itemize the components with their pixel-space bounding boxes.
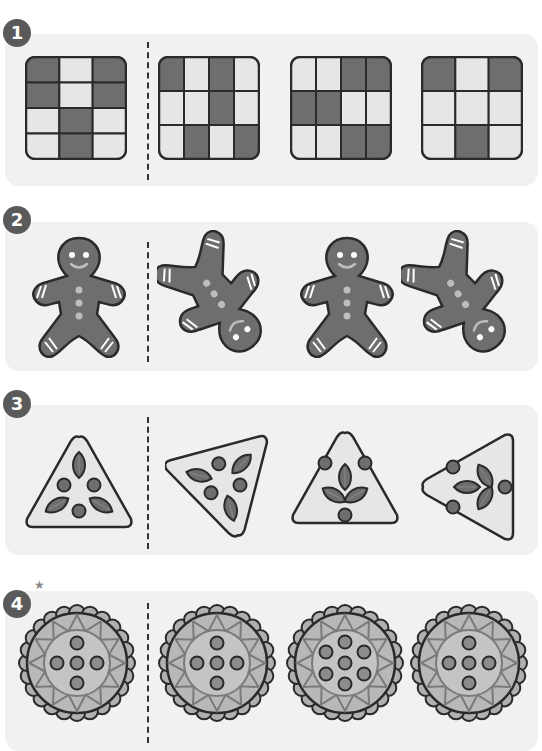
dashed-divider <box>147 603 149 743</box>
section-1-panel <box>5 34 538 186</box>
grid-option-1[interactable] <box>158 56 260 160</box>
triangle-option-3[interactable] <box>413 423 533 543</box>
triangle-option-2[interactable] <box>285 419 405 539</box>
gingerbread-option-1[interactable] <box>157 230 277 366</box>
dashed-divider <box>147 42 149 180</box>
gingerbread-option-3[interactable] <box>401 230 521 366</box>
section-1-badge: 1 <box>3 19 31 47</box>
grid-reference[interactable] <box>25 56 127 160</box>
triangle-reference[interactable] <box>19 423 139 543</box>
gingerbread-option-2[interactable] <box>287 230 407 366</box>
grid-option-2[interactable] <box>290 56 392 160</box>
cookie-option-1[interactable] <box>157 601 277 725</box>
section-4-panel <box>5 591 538 751</box>
section-3-panel <box>5 405 538 555</box>
section-4-badge: 4 <box>3 590 31 618</box>
cookie-option-3[interactable] <box>409 601 529 725</box>
dashed-divider <box>147 242 149 362</box>
section-2-panel <box>5 222 538 371</box>
gingerbread-reference[interactable] <box>19 230 139 366</box>
cookie-option-2[interactable] <box>285 601 405 725</box>
cut-off-title: · · · · · · · <box>0 0 542 6</box>
dashed-divider <box>147 417 149 549</box>
cookie-reference[interactable] <box>17 601 137 725</box>
challenge-star-icon: ★ <box>34 578 45 592</box>
triangle-option-1[interactable] <box>165 423 285 543</box>
section-2-badge: 2 <box>3 206 31 234</box>
section-3-badge: 3 <box>3 390 31 418</box>
grid-option-3[interactable] <box>421 56 523 160</box>
title-text: · · · · · · · <box>4 0 122 6</box>
